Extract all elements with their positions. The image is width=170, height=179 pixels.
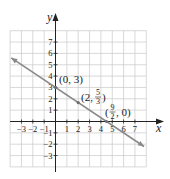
x-tick-label: 4 bbox=[99, 124, 104, 134]
grid bbox=[10, 31, 146, 167]
x-tick-label: −3 bbox=[17, 124, 26, 134]
y-tick-label: 7 bbox=[48, 37, 52, 47]
y-tick-label: 6 bbox=[48, 48, 52, 58]
coordinate-plane: −3−2−112345677654321−1−2−3 y x (0, 3) (2… bbox=[0, 0, 170, 179]
x-tick-label: 2 bbox=[76, 124, 80, 134]
y-tick-label: 5 bbox=[48, 60, 52, 70]
y-tick-label: −3 bbox=[43, 151, 52, 161]
data-point bbox=[77, 101, 80, 104]
x-tick-label: 3 bbox=[87, 124, 91, 134]
x-tick-label: 7 bbox=[133, 124, 137, 134]
annotation-prefix: ( bbox=[105, 106, 109, 119]
x-tick-label: −2 bbox=[28, 124, 37, 134]
y-tick-label: 1 bbox=[48, 105, 52, 115]
y-tick-label: −1 bbox=[43, 128, 52, 138]
x-axis-label: x bbox=[155, 121, 162, 135]
fraction-numerator: 5 bbox=[96, 88, 100, 97]
data-point bbox=[105, 120, 108, 123]
annotation-suffix: , 0) bbox=[116, 106, 131, 119]
annotation-point-0-3: (0, 3) bbox=[59, 73, 83, 86]
annotation-point-2-5-3: (2, 5 3 ) bbox=[81, 88, 106, 106]
annotation-point-9-2-0: ( 9 2 , 0) bbox=[105, 103, 131, 121]
y-tick-label: 2 bbox=[48, 94, 52, 104]
fraction-numerator: 9 bbox=[111, 103, 115, 112]
y-axis-arrow-icon bbox=[53, 13, 59, 21]
annotation-prefix: (2, bbox=[81, 91, 93, 104]
x-tick-label: 1 bbox=[65, 124, 69, 134]
y-tick-label: −2 bbox=[43, 139, 52, 149]
y-axis-label: y bbox=[46, 10, 53, 24]
fraction-denominator: 3 bbox=[96, 97, 100, 106]
fraction-denominator: 2 bbox=[111, 112, 115, 121]
data-point bbox=[54, 86, 57, 89]
annotation-suffix: ) bbox=[102, 91, 106, 104]
